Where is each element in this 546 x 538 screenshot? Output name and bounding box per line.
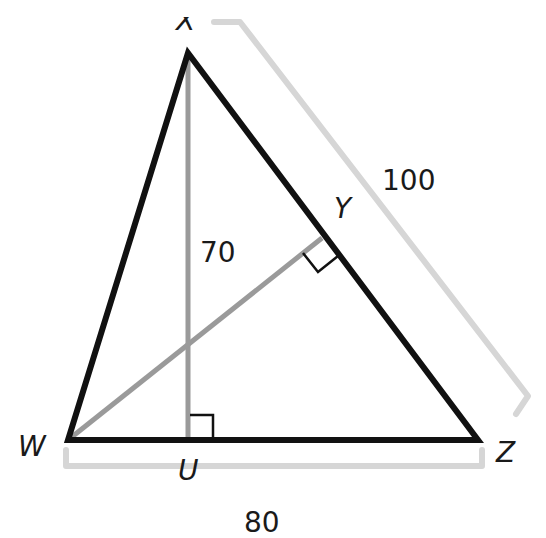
vertex-label-z: Z xyxy=(495,436,516,469)
triangle-diagram: X W Z U Y 70 100 80 xyxy=(0,0,546,538)
right-angle-marker-y xyxy=(303,253,338,272)
measure-altitude-xu: 70 xyxy=(200,236,236,269)
right-angle-marker-u xyxy=(190,415,213,440)
vertex-label-x: X xyxy=(174,4,196,37)
foot-label-y: Y xyxy=(334,192,353,225)
vertex-label-w: W xyxy=(18,430,47,463)
foot-label-u: U xyxy=(178,454,199,487)
measure-side-wz: 80 xyxy=(244,506,280,538)
dimension-bracket-xz xyxy=(214,22,528,414)
altitude-wy xyxy=(68,238,322,440)
measure-side-xz: 100 xyxy=(382,164,435,197)
dimension-bracket-wz xyxy=(66,450,482,466)
